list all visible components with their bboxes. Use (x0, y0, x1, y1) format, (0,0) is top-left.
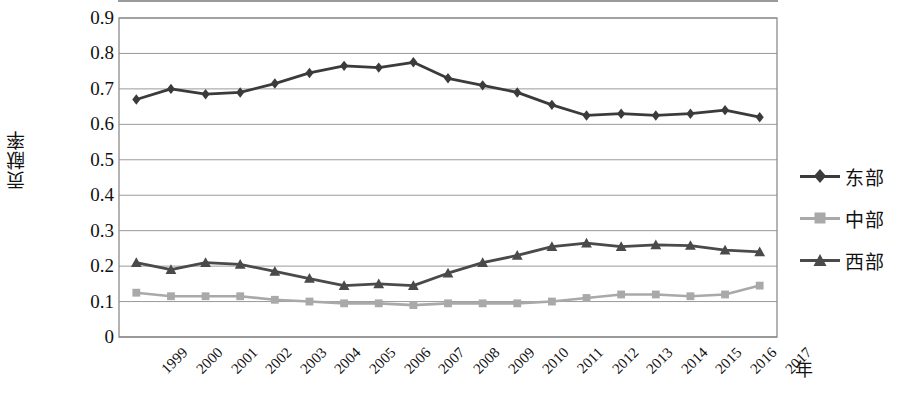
data-point-marker (583, 294, 591, 302)
legend-symbol-triangle-icon (800, 250, 840, 270)
data-point-marker (167, 84, 175, 94)
data-point-marker (236, 292, 244, 300)
data-point-marker (132, 94, 140, 104)
series-line (136, 243, 759, 286)
data-point-marker (652, 110, 660, 120)
plot-frame (119, 18, 777, 337)
data-point-marker (132, 289, 140, 297)
data-point-marker (548, 100, 556, 110)
data-point-marker (582, 110, 590, 120)
plot-area (0, 0, 908, 403)
chart-legend: 东部中部西部 (800, 155, 908, 281)
data-point-marker (167, 292, 175, 300)
legend-item-中部[interactable]: 中部 (800, 197, 908, 239)
x-axis-title: 年 (795, 355, 813, 381)
legend-symbol-square-icon (800, 208, 840, 228)
data-point-marker (479, 299, 487, 307)
chart-figure: 贡献率 0.90.80.70.60.50.40.30.20.10 1999200… (0, 0, 908, 403)
legend-item-东部[interactable]: 东部 (800, 155, 908, 197)
data-point-marker (375, 62, 383, 72)
legend-marker-icon (813, 169, 827, 183)
data-point-marker (340, 61, 348, 71)
data-point-marker (721, 105, 729, 115)
data-point-marker (686, 109, 694, 119)
legend-label: 西部 (845, 247, 885, 274)
data-point-marker (756, 282, 764, 290)
data-point-marker (617, 109, 625, 119)
data-point-marker (202, 89, 210, 99)
legend-marker-icon (813, 253, 827, 267)
data-point-marker (687, 292, 695, 300)
data-point-marker (306, 298, 314, 306)
series-line (136, 62, 759, 117)
data-point-marker (444, 73, 452, 83)
data-point-marker (271, 296, 279, 304)
data-point-marker (305, 68, 313, 78)
series-中部 (132, 282, 763, 309)
data-point-marker (271, 78, 279, 88)
legend-label: 东部 (845, 163, 885, 190)
data-point-marker (409, 57, 417, 67)
series-西部 (131, 238, 765, 290)
data-point-marker (375, 299, 383, 307)
legend-marker-icon (813, 211, 827, 225)
data-point-marker (444, 299, 452, 307)
legend-label: 中部 (845, 205, 885, 232)
data-point-marker (513, 299, 521, 307)
data-point-marker (548, 298, 556, 306)
series-东部 (132, 57, 763, 122)
data-point-marker (617, 291, 625, 299)
data-point-marker (721, 291, 729, 299)
legend-item-西部[interactable]: 西部 (800, 239, 908, 281)
data-point-marker (202, 292, 210, 300)
data-point-marker (756, 112, 764, 122)
data-point-marker (409, 301, 417, 309)
data-point-marker (652, 291, 660, 299)
data-point-marker (340, 299, 348, 307)
legend-symbol-diamond-icon (800, 166, 840, 186)
